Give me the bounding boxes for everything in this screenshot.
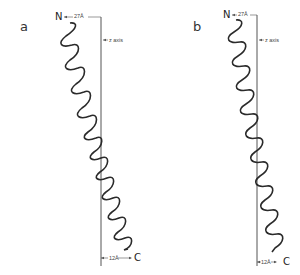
bottom-distance-label: 12Å <box>109 255 119 261</box>
z-axis-label: z axis <box>109 37 123 43</box>
bottom-distance-label: 12Å <box>261 259 271 265</box>
helix-wave-a <box>61 23 132 250</box>
panel-label: b <box>193 19 201 34</box>
top-distance-label: 27Å <box>74 13 84 19</box>
c-terminus-label: C <box>283 256 290 267</box>
top-distance-label: 27Å <box>238 11 248 17</box>
helix-wave-b <box>228 20 282 252</box>
c-terminus-label: C <box>134 252 141 263</box>
z-axis-label: z axis <box>265 37 279 43</box>
panel-a: a N 27Å z axis 12Å C <box>0 0 150 275</box>
panel-b: b N 27Å z axis 12Å C <box>150 0 300 275</box>
n-terminus-label: N <box>223 9 230 20</box>
n-terminus-label: N <box>55 11 62 22</box>
panel-label: a <box>20 19 28 34</box>
helix-diagram-a <box>0 0 150 275</box>
